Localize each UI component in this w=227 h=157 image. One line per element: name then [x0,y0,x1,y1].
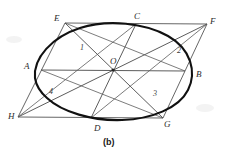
vertex-label-E: E [54,14,60,23]
region-label-1: 1 [80,44,84,52]
vertex-label-D: D [94,124,101,133]
vertex-label-G: G [164,120,171,129]
geometry-figure: E C F A O B H D G 1 2 3 4 (b) [0,0,227,157]
segment-AG [41,70,163,118]
figure-caption: (b) [103,138,115,147]
figure-canvas [0,0,227,157]
vertex-label-F: F [210,17,216,26]
center-point-O [111,68,114,71]
region-label-2: 2 [177,47,181,55]
vertex-label-A: A [24,62,30,71]
region-label-3: 3 [153,90,157,98]
region-label-4: 4 [49,88,53,96]
vertex-label-H: H [8,112,15,121]
vertex-label-O: O [110,57,117,66]
vertex-label-C: C [134,12,140,21]
vertex-label-B: B [196,70,202,79]
